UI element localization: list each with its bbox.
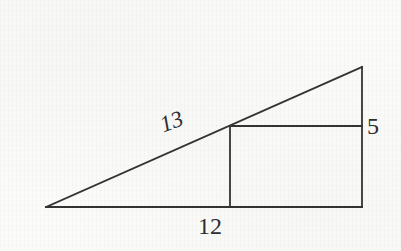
geometry-figure: 13 12 5	[0, 0, 401, 251]
hypotenuse-segment	[46, 67, 362, 207]
height-length-label: 5	[367, 114, 379, 138]
base-length-label: 12	[198, 214, 222, 238]
